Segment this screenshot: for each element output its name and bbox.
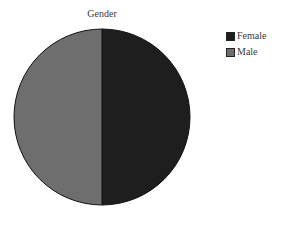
legend-label-female: Female (237, 30, 266, 42)
legend-swatch-female (226, 32, 235, 41)
pie-slice-male (14, 29, 102, 205)
legend: Female Male (226, 30, 266, 62)
legend-label-male: Male (237, 46, 258, 58)
legend-swatch-male (226, 48, 235, 57)
pie-slice-female (102, 29, 190, 205)
legend-item-male: Male (226, 46, 266, 58)
legend-item-female: Female (226, 30, 266, 42)
